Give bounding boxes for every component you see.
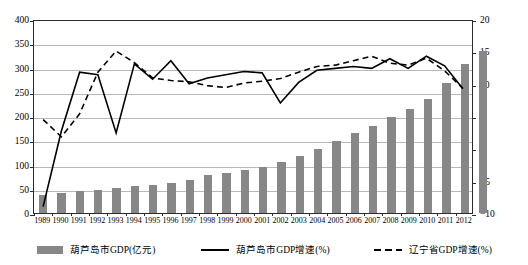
- x-tick-label: 2011: [436, 216, 454, 225]
- y-tick-right: [472, 118, 476, 119]
- x-tick-label: 2000: [235, 216, 253, 225]
- x-tick-label: 1993: [106, 216, 124, 225]
- x-tick-label: 1989: [33, 216, 51, 225]
- x-tick-label: 2003: [290, 216, 308, 225]
- y-tick-label-right: 20: [480, 15, 506, 25]
- line-huludao-growth: [43, 56, 463, 206]
- x-tick-label: 1995: [143, 216, 161, 225]
- solid-line-swatch-icon: [201, 249, 229, 251]
- x-tick-label: 1990: [51, 216, 69, 225]
- bar: [479, 51, 487, 213]
- legend-item-huludao-growth: 葫芦岛市GDP增速(%): [201, 245, 329, 256]
- y-tick-label-left: 300: [3, 64, 29, 74]
- x-tick-label: 2001: [253, 216, 271, 225]
- y-tick-label-left: 350: [3, 39, 29, 49]
- x-tick-label: 1997: [180, 216, 198, 225]
- x-tick-label: 1991: [70, 216, 88, 225]
- y-tick-right: [472, 150, 476, 151]
- x-tick-label: 2002: [271, 216, 289, 225]
- x-tick-label: 1998: [198, 216, 216, 225]
- x-tick-label: 2009: [400, 216, 418, 225]
- y-tick-label-left: 400: [3, 15, 29, 25]
- chart-legend: 葫芦岛市GDP(亿元) 葫芦岛市GDP增速(%) 辽宁省GDP增速(%): [33, 240, 503, 260]
- y-tick-label-left: 100: [3, 161, 29, 171]
- legend-label-huludao-growth: 葫芦岛市GDP增速(%): [236, 245, 329, 256]
- y-tick-label-left: 50: [3, 185, 29, 195]
- bar-swatch-icon: [37, 246, 63, 254]
- y-tick-right: [472, 183, 476, 184]
- y-tick-right: [472, 86, 476, 87]
- legend-label-gdp: 葫芦岛市GDP(亿元): [70, 245, 155, 256]
- y-tick-label-left: 200: [3, 112, 29, 122]
- y-tick-right: [472, 53, 476, 54]
- x-tick-label: 1996: [161, 216, 179, 225]
- x-tick-label: 2005: [326, 216, 344, 225]
- x-tick-label: 2010: [418, 216, 436, 225]
- y-tick-label-left: 0: [3, 209, 29, 219]
- y-tick-label-left: 150: [3, 136, 29, 146]
- x-tick-label: 1994: [125, 216, 143, 225]
- x-tick-label: 2008: [381, 216, 399, 225]
- legend-item-liaoning-growth: 辽宁省GDP增速(%): [374, 245, 492, 256]
- line-series: [34, 21, 472, 213]
- x-tick-label: 2004: [308, 216, 326, 225]
- chart-figure: 050100150200250300350400 −10−505101520 1…: [0, 0, 528, 265]
- x-tick-label: 2012: [455, 216, 473, 225]
- x-tick-label: 2006: [345, 216, 363, 225]
- legend-item-gdp: 葫芦岛市GDP(亿元): [37, 245, 155, 256]
- x-axis-labels: 1989199019911992199319941995199619971998…: [33, 216, 473, 232]
- x-tick-label: 2007: [363, 216, 381, 225]
- y-tick-label-left: 250: [3, 88, 29, 98]
- x-tick-label: 1999: [216, 216, 234, 225]
- dashed-line-swatch-icon: [374, 249, 402, 251]
- x-tick-label: 1992: [88, 216, 106, 225]
- legend-label-liaoning-growth: 辽宁省GDP增速(%): [409, 245, 492, 256]
- y-tick-right: [472, 21, 476, 22]
- plot-area: [33, 20, 473, 214]
